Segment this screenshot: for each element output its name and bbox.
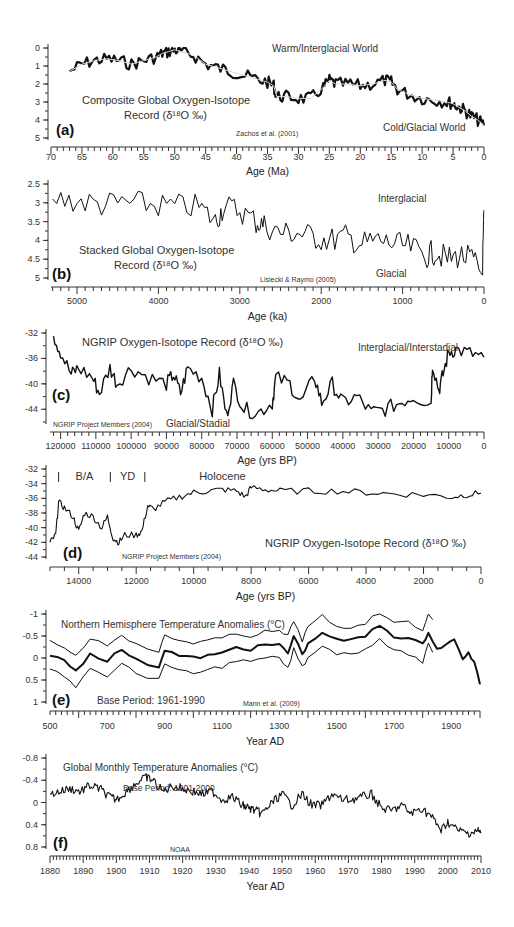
annotation: Glacial/Stadial	[166, 418, 230, 429]
panel-title: Record (δ¹⁸O ‰)	[124, 109, 207, 121]
panel-title: NGRIP Oxygen-Isotope Record (δ¹⁸O ‰)	[265, 537, 466, 549]
y-tick-label: 4	[35, 115, 40, 125]
y-tick-label: 4.5	[27, 254, 40, 264]
x-tick-label: 70000	[224, 441, 249, 451]
x-tick-label: 1100	[212, 721, 231, 731]
x-tick-label: 0	[478, 576, 483, 586]
x-tick-label: 80000	[189, 441, 214, 451]
y-tick-label: 0.8	[25, 842, 38, 852]
y-tick-label: 2.5	[27, 179, 40, 189]
x-tick-label: 0	[481, 296, 486, 306]
panel-f: 0.80.40-0.4-0.81880189019001910192019301…	[22, 753, 491, 892]
annotation: Base Period: 1901-2000	[123, 783, 215, 793]
x-tick-label: 1880	[40, 866, 60, 876]
y-tick-label: -42	[25, 537, 38, 547]
x-tick-label: 5	[451, 152, 456, 162]
x-tick-label: 10	[417, 152, 427, 162]
data-series	[50, 486, 481, 545]
annotation: NGRIP Project Members (2004)	[53, 421, 152, 429]
panel-label: (b)	[52, 265, 71, 282]
x-axis-title: Age (yrs BP)	[236, 590, 296, 602]
y-tick-label: 1	[33, 697, 38, 707]
annotation: Interglacial	[378, 193, 426, 204]
y-tick-label: 2	[35, 79, 40, 89]
y-tick-label: 5	[35, 133, 40, 143]
y-tick-label: 0	[33, 798, 38, 808]
x-tick-label: 65	[77, 152, 87, 162]
x-tick-label: 8000	[241, 576, 261, 586]
y-tick-label: -0.8	[22, 753, 38, 763]
x-tick-label: 1930	[206, 866, 226, 876]
annotation: Warm/Interglacial World	[272, 43, 378, 54]
x-tick-label: 15	[386, 152, 396, 162]
x-tick-label: 30	[293, 152, 303, 162]
y-tick-label: 4	[35, 235, 40, 245]
annotation: Interglacial/Interstadial	[358, 342, 458, 353]
panel-title: Record (δ¹⁸O ‰)	[114, 259, 197, 271]
x-tick-label: 1920	[173, 866, 193, 876]
x-tick-label: 500	[42, 721, 57, 731]
annotation: Cold/Glacial World	[383, 122, 466, 133]
panel-c: -32-36-40-441200001100001000009000080000…	[25, 328, 487, 466]
x-tick-label: 1500	[327, 721, 347, 731]
y-tick-label: -0.4	[22, 775, 38, 785]
x-tick-label: 0	[481, 441, 486, 451]
x-tick-label: 10000	[181, 576, 206, 586]
annotation: NOAA	[170, 846, 190, 853]
x-tick-label: 6000	[299, 576, 319, 586]
annotation: Base Period: 1961-1990	[97, 695, 205, 706]
y-tick-label: 0	[35, 43, 40, 53]
x-tick-label: 4000	[356, 576, 376, 586]
x-tick-label: 1990	[405, 866, 425, 876]
x-tick-label: 1950	[272, 866, 292, 876]
x-tick-label: 4000	[148, 296, 168, 306]
y-tick-label: 5	[35, 273, 40, 283]
x-tick-label: 25	[324, 152, 334, 162]
panel-title: Composite Global Oxygen-Isotope	[82, 94, 250, 106]
paleoclimate-figure: 0123457065605550454035302520151050Age (M…	[0, 0, 514, 927]
panel-title: NGRIP Oxygen-Isotope Record (δ¹⁸O ‰)	[82, 336, 283, 348]
x-tick-label: 100000	[116, 441, 146, 451]
x-tick-label: 1890	[73, 866, 93, 876]
annotation: Lisiecki & Raymo (2005)	[260, 276, 336, 284]
x-axis-title: Year AD	[246, 735, 285, 747]
y-tick-label: -1	[30, 609, 38, 619]
annotation: NGRIP Project Members (2004)	[122, 553, 221, 561]
x-tick-label: 40000	[330, 441, 355, 451]
x-tick-label: 40	[232, 152, 242, 162]
x-tick-label: 2010	[471, 866, 491, 876]
x-tick-label: 35	[262, 152, 272, 162]
panel-title: Global Monthly Temperature Anomalies (°C…	[63, 762, 258, 773]
x-tick-label: 90000	[154, 441, 179, 451]
x-axis-title: Age (yrs BP)	[237, 454, 297, 466]
y-tick-label: -32	[25, 328, 38, 338]
x-axis-title: Year AD	[246, 880, 285, 892]
x-tick-label: 30000	[366, 441, 391, 451]
x-tick-label: 60	[108, 152, 118, 162]
x-tick-label: 1900	[106, 866, 126, 876]
x-tick-label: 120000	[46, 441, 76, 451]
y-tick-label: -36	[25, 493, 38, 503]
y-tick-label: -44	[25, 552, 38, 562]
annotation: Glacial	[376, 268, 407, 279]
x-tick-label: 1910	[139, 866, 159, 876]
y-tick-label: 3	[35, 198, 40, 208]
x-tick-label: 1900	[441, 721, 461, 731]
y-tick-label: -0.5	[22, 631, 38, 641]
period-label: B/A	[76, 470, 94, 482]
y-tick-label: -32	[25, 464, 38, 474]
y-tick-label: -36	[25, 353, 38, 363]
period-label: YD	[120, 470, 135, 482]
x-tick-label: 1940	[239, 866, 259, 876]
x-tick-label: 55	[139, 152, 149, 162]
y-tick-label: 3.5	[27, 217, 40, 227]
x-tick-label: 50000	[295, 441, 320, 451]
x-tick-label: 70	[46, 152, 56, 162]
x-tick-label: 1970	[338, 866, 358, 876]
x-tick-label: 5000	[67, 296, 87, 306]
panel-label: (a)	[56, 121, 74, 138]
panel-label: (c)	[52, 386, 70, 403]
series-reconstruction	[50, 626, 480, 685]
panel-label: (d)	[63, 544, 82, 561]
y-tick-label: 0	[33, 653, 38, 663]
